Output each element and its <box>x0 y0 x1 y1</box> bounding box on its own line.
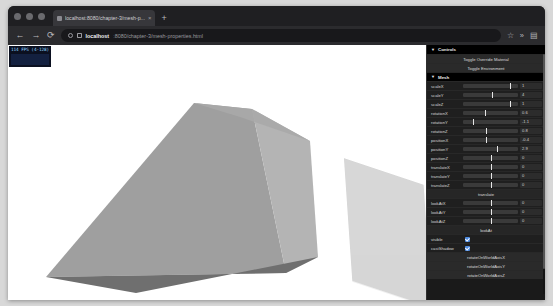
gui-slider-knob[interactable] <box>485 110 486 116</box>
look-at-button[interactable]: lookAt <box>427 225 545 234</box>
close-window-button[interactable] <box>14 13 21 20</box>
gui-row-positionY[interactable]: positionY2.9 <box>427 144 545 153</box>
gui-row-rotationY[interactable]: rotationY-1.1 <box>427 117 545 126</box>
gui-row-widget[interactable]: 2.9 <box>463 146 545 152</box>
gui-row-lookAtY[interactable]: lookAtY0 <box>427 207 545 216</box>
gui-slider-knob[interactable] <box>486 128 487 134</box>
reload-button[interactable]: ⟳ <box>47 31 55 40</box>
gui-row-rotationX[interactable]: rotationX0.6 <box>427 108 545 117</box>
gui-row-widget[interactable]: 1 <box>463 101 545 107</box>
gui-root-header[interactable]: ▼ Controls <box>427 45 545 54</box>
gui-slider-knob[interactable] <box>491 173 492 179</box>
toggle-environment-button[interactable]: Toggle Environment <box>427 63 545 72</box>
bookmark-star-icon[interactable]: ☆ <box>507 32 514 40</box>
gui-row-widget[interactable]: 4 <box>463 92 545 98</box>
gui-checkbox-row-visible[interactable]: visible <box>427 234 545 243</box>
gui-scrollbar[interactable] <box>543 54 545 294</box>
gui-slider[interactable] <box>463 102 518 106</box>
lil-gui-panel[interactable]: ▼ Controls Toggle Override Material Togg… <box>426 45 545 300</box>
gui-slider[interactable] <box>463 138 518 142</box>
gui-number-input[interactable]: 2.9 <box>520 146 542 152</box>
gui-number-input[interactable]: 0 <box>520 164 542 170</box>
gui-row-widget[interactable]: 0 <box>463 209 545 215</box>
gui-row-translateZ[interactable]: translateZ0 <box>427 180 545 189</box>
minimize-window-button[interactable] <box>26 13 33 20</box>
gui-row-widget[interactable]: 0 <box>463 182 545 188</box>
gui-slider-knob[interactable] <box>491 164 492 170</box>
gui-number-input[interactable]: 0 <box>520 173 542 179</box>
gui-slider-knob[interactable] <box>491 209 492 215</box>
gui-number-input[interactable]: -0.4 <box>520 137 542 143</box>
overflow-chevron-icon[interactable]: » <box>520 32 524 40</box>
gui-number-input[interactable]: 4 <box>520 92 542 98</box>
address-bar[interactable]: localhost :8080/chapter-3/mesh-propertie… <box>61 29 501 42</box>
gui-row-widget[interactable]: 0 <box>463 164 545 170</box>
gui-number-input[interactable]: 0 <box>520 209 542 215</box>
gui-slider[interactable] <box>463 183 518 187</box>
gui-slider-knob[interactable] <box>510 83 511 89</box>
new-tab-button[interactable]: + <box>155 14 171 26</box>
back-button[interactable]: ← <box>15 31 25 40</box>
gui-row-translateX[interactable]: translateX0 <box>427 162 545 171</box>
gui-row-widget[interactable]: -1.1 <box>463 119 545 125</box>
gui-row-widget[interactable]: 0 <box>463 173 545 179</box>
gui-number-input[interactable]: 0 <box>520 182 542 188</box>
gui-row-scaleY[interactable]: scaleY4 <box>427 90 545 99</box>
gui-slider-knob[interactable] <box>497 146 498 152</box>
gui-number-input[interactable]: 1 <box>520 83 542 89</box>
gui-row-widget[interactable]: 0.8 <box>463 128 545 134</box>
gui-slider[interactable] <box>463 84 518 88</box>
gui-number-input[interactable]: 0 <box>520 200 542 206</box>
gui-slider[interactable] <box>463 129 518 133</box>
gui-slider-knob[interactable] <box>491 200 492 206</box>
gui-row-scaleZ[interactable]: scaleZ1 <box>427 99 545 108</box>
gui-number-input[interactable]: 0 <box>520 218 542 224</box>
gui-row-rotationZ[interactable]: rotationZ0.8 <box>427 126 545 135</box>
gui-slider-knob[interactable] <box>486 137 487 143</box>
gui-row-widget[interactable]: -0.4 <box>463 137 545 143</box>
forward-button[interactable]: → <box>31 31 41 40</box>
gui-slider-knob[interactable] <box>492 92 493 98</box>
gui-slider-knob[interactable] <box>510 101 511 107</box>
translate-button[interactable]: translate <box>427 189 545 198</box>
gui-row-lookAtX[interactable]: lookAtX0 <box>427 198 545 207</box>
gui-mesh-folder-header[interactable]: ▼ Mesh <box>427 72 545 81</box>
gui-slider-knob[interactable] <box>473 119 474 125</box>
gui-slider[interactable] <box>463 147 518 151</box>
rotate-on-world-axis-y-button[interactable]: rotateOnWorldAxisY <box>427 261 545 270</box>
gui-row-widget[interactable]: 0.6 <box>463 110 545 116</box>
gui-row-lookAtZ[interactable]: lookAtZ0 <box>427 216 545 225</box>
rotate-on-world-axis-z-button[interactable]: rotateOnWorldAxisZ <box>427 270 545 279</box>
gui-slider-knob[interactable] <box>491 182 492 188</box>
tab-close-icon[interactable]: × <box>148 15 152 21</box>
gui-slider[interactable] <box>463 165 518 169</box>
fps-stats-panel[interactable]: 114 FPS (4-128) <box>8 45 52 68</box>
gui-slider[interactable] <box>463 201 518 205</box>
gui-number-input[interactable]: -1.1 <box>520 119 542 125</box>
gui-row-scaleX[interactable]: scaleX1 <box>427 81 545 90</box>
gui-number-input[interactable]: 0.6 <box>520 110 542 116</box>
toggle-override-material-button[interactable]: Toggle Override Material <box>427 54 545 63</box>
gui-number-input[interactable]: 1 <box>520 101 542 107</box>
gui-row-positionZ[interactable]: positionZ0 <box>427 153 545 162</box>
gui-slider[interactable] <box>463 93 518 97</box>
gui-row-widget[interactable]: 1 <box>463 83 545 89</box>
gui-slider[interactable] <box>463 156 518 160</box>
gui-scrollbar-thumb[interactable] <box>543 54 545 269</box>
gui-checkbox[interactable] <box>465 237 470 242</box>
gui-row-widget[interactable]: 0 <box>463 155 545 161</box>
maximize-window-button[interactable] <box>38 13 45 20</box>
gui-slider[interactable] <box>463 174 518 178</box>
gui-slider[interactable] <box>463 120 518 124</box>
gui-row-widget[interactable]: 0 <box>463 200 545 206</box>
browser-tab[interactable]: localhost:8080/chapter-3/mesh-p... × <box>53 10 155 26</box>
gui-checkbox-row-castShadow[interactable]: castShadow <box>427 243 545 252</box>
page-info-icon[interactable] <box>77 33 82 39</box>
gui-number-input[interactable]: 0 <box>520 155 542 161</box>
gui-slider[interactable] <box>463 111 518 115</box>
gui-slider-knob[interactable] <box>491 218 492 224</box>
gui-row-positionX[interactable]: positionX-0.4 <box>427 135 545 144</box>
gui-slider[interactable] <box>463 210 518 214</box>
gui-slider-knob[interactable] <box>491 155 492 161</box>
gui-checkbox[interactable] <box>465 246 470 251</box>
